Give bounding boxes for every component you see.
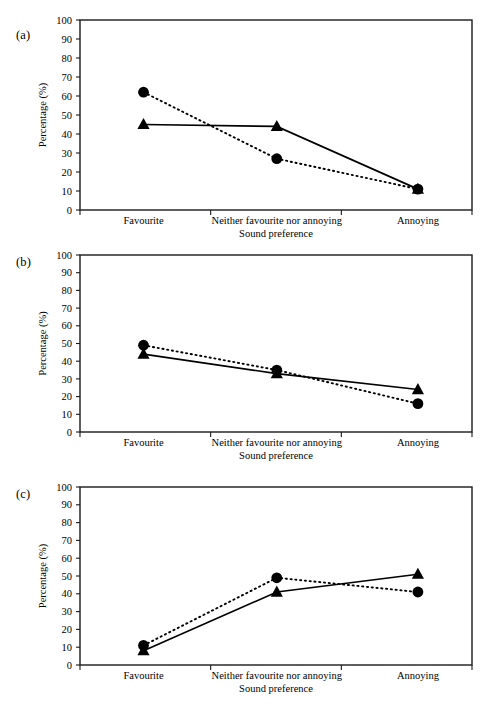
x-category-label: Favourite [123, 670, 164, 681]
x-category-label: Neither favourite nor annoying [212, 215, 343, 226]
y-tick-label: 10 [62, 409, 73, 420]
y-tick-label: 20 [62, 391, 73, 402]
y-tick-label: 10 [62, 642, 73, 653]
chart-panel-a: (a) 0102030405060708090100FavouriteNeith… [0, 0, 489, 240]
x-category-label: Neither favourite nor annoying [212, 437, 343, 448]
data-point-triangle [137, 348, 149, 359]
y-tick-label: 80 [62, 517, 73, 528]
y-tick-label: 50 [62, 571, 73, 582]
series-line-circle [144, 578, 418, 646]
y-tick-label: 40 [62, 356, 73, 367]
y-tick-label: 60 [62, 91, 73, 102]
y-tick-label: 30 [62, 148, 73, 159]
y-tick-label: 90 [62, 34, 73, 45]
y-tick-label: 10 [62, 186, 73, 197]
y-tick-label: 50 [62, 338, 73, 349]
y-tick-label: 50 [62, 110, 73, 121]
y-tick-label: 90 [62, 267, 73, 278]
x-category-label: Annoying [397, 437, 440, 448]
x-category-label: Annoying [397, 670, 440, 681]
x-axis-title: Sound preference [239, 683, 313, 694]
x-category-label: Annoying [397, 215, 440, 226]
y-axis-title: Percentage (%) [37, 311, 49, 376]
y-tick-label: 30 [62, 374, 73, 385]
y-tick-label: 100 [56, 250, 72, 261]
data-point-triangle [412, 568, 424, 579]
y-tick-label: 100 [56, 482, 72, 493]
x-category-label: Favourite [123, 215, 164, 226]
y-tick-label: 40 [62, 588, 73, 599]
y-axis-title: Percentage (%) [37, 543, 49, 608]
y-tick-label: 80 [62, 285, 73, 296]
x-category-label: Favourite [123, 437, 164, 448]
x-category-label: Neither favourite nor annoying [212, 670, 343, 681]
series-line-triangle [144, 574, 418, 651]
data-point-circle [138, 87, 149, 98]
plot-area-b: 0102030405060708090100FavouriteNeither f… [0, 235, 489, 475]
y-tick-label: 30 [62, 606, 73, 617]
y-tick-label: 0 [67, 660, 72, 671]
y-tick-label: 40 [62, 129, 73, 140]
figure-three-line-charts: (a) 0102030405060708090100FavouriteNeith… [0, 0, 489, 710]
x-axis-title: Sound preference [239, 450, 313, 461]
y-tick-label: 80 [62, 53, 73, 64]
data-point-circle [271, 572, 282, 583]
y-tick-label: 90 [62, 499, 73, 510]
chart-panel-b: (b) 0102030405060708090100FavouriteNeith… [0, 235, 489, 475]
data-point-circle [413, 398, 424, 409]
y-tick-label: 60 [62, 553, 73, 564]
y-tick-label: 0 [67, 205, 72, 216]
y-tick-label: 60 [62, 320, 73, 331]
data-point-circle [271, 153, 282, 164]
y-tick-label: 100 [56, 15, 72, 26]
y-tick-label: 20 [62, 167, 73, 178]
y-axis-title: Percentage (%) [37, 82, 49, 147]
data-point-triangle [137, 118, 149, 129]
y-tick-label: 70 [62, 72, 73, 83]
plot-area-a: 0102030405060708090100FavouriteNeither f… [0, 0, 489, 240]
y-tick-label: 0 [67, 427, 72, 438]
plot-area-c: 0102030405060708090100FavouriteNeither f… [0, 467, 489, 710]
chart-panel-c: (c) 0102030405060708090100FavouriteNeith… [0, 467, 489, 710]
y-tick-label: 70 [62, 303, 73, 314]
plot-frame [80, 20, 472, 210]
data-point-circle [413, 587, 424, 598]
y-tick-label: 20 [62, 624, 73, 635]
y-tick-label: 70 [62, 535, 73, 546]
series-line-circle [144, 92, 418, 189]
